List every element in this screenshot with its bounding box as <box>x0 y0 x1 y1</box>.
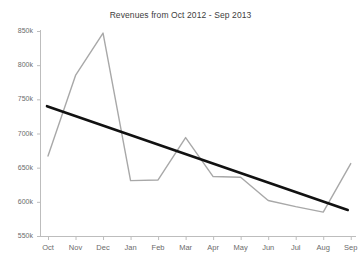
x-tick-label: Feb <box>145 243 171 252</box>
y-tick-label: 600k <box>5 198 33 205</box>
x-tick-label: Apr <box>200 243 226 252</box>
x-tick-label: Jan <box>118 243 144 252</box>
x-tick-label: Mar <box>173 243 199 252</box>
x-tick-label: Sep <box>338 243 361 252</box>
chart-container: Revenues from Oct 2012 - Sep 2013 850k80… <box>0 0 361 269</box>
y-axis <box>37 30 41 237</box>
x-tick-label: Jun <box>255 243 281 252</box>
x-tick-label: Jul <box>283 243 309 252</box>
y-tick-label: 750k <box>5 95 33 102</box>
x-tick-label: Dec <box>90 243 116 252</box>
x-tick-label: Aug <box>310 243 336 252</box>
x-axis <box>41 236 357 240</box>
x-tick-label: May <box>228 243 254 252</box>
x-tick-label: Oct <box>35 243 61 252</box>
x-tick-label: Nov <box>63 243 89 252</box>
y-tick-label: 550k <box>5 232 33 239</box>
y-tick-label: 700k <box>5 130 33 137</box>
y-tick-label: 650k <box>5 164 33 171</box>
series-lines <box>47 33 351 212</box>
trend-line <box>47 106 348 210</box>
y-tick-label: 850k <box>5 27 33 34</box>
y-tick-label: 800k <box>5 61 33 68</box>
plot-area <box>0 0 361 269</box>
